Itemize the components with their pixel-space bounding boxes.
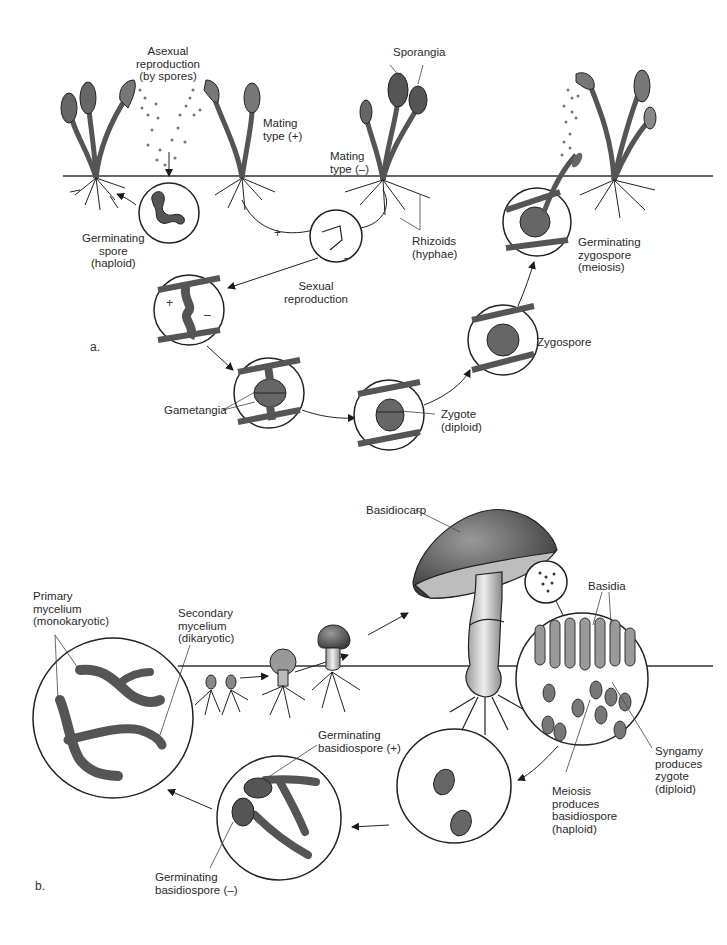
sporangiophore-plant-mating-minus [345, 73, 430, 215]
label-rhizoids: Rhizoids (hyphae) [412, 235, 457, 260]
panel-label-a: a. [90, 340, 100, 354]
label-basidia: Basidia [588, 580, 626, 593]
small-primordia [195, 675, 248, 715]
stage-circle-1 [154, 275, 224, 345]
sign-plus-loop: + [274, 226, 281, 240]
label-zygote: Zygote (diploid) [441, 408, 482, 433]
young-button [262, 649, 305, 718]
diagram-artwork [0, 0, 727, 945]
label-sexual-reproduction: Sexual reproduction [284, 280, 348, 305]
asexual-spores [139, 89, 202, 167]
label-meiosis: Meiosis produces basidiospore (haploid) [552, 785, 617, 835]
label-germinating-basidiospore-plus: Germinating basidiospore (+) [318, 729, 401, 754]
germinating-spore-circle [139, 183, 199, 243]
label-mating-type-plus: Mating type (+) [263, 117, 302, 142]
stage-circle-gametangia [234, 358, 304, 428]
germinating-basidiospores-circle [217, 756, 341, 880]
sign-minus-stage: – [204, 308, 211, 322]
sporangiophore-plant-right [576, 70, 656, 218]
label-asexual-reproduction: Asexual reproduction (by spores) [136, 45, 200, 83]
sexual-reproduction-circle [310, 210, 362, 262]
label-germinating-zygospore: Germinating zygospore (meiosis) [578, 236, 641, 274]
label-secondary-mycelium: Secondary mycelium (dikaryotic) [178, 607, 234, 645]
label-basidiocarp: Basidiocarp [366, 504, 426, 517]
sporangiophore-plant-1 [61, 80, 135, 210]
stage-circle-zygote [354, 380, 424, 450]
label-syngamy: Syngamy produces zygote (diploid) [655, 745, 703, 795]
basidiospore-circle [397, 729, 511, 843]
fungal-life-cycle-figure: Asexual reproduction (by spores) Sporang… [0, 0, 727, 945]
primary-mycelium-circle [33, 638, 193, 798]
label-germinating-basidiospore-minus: Germinating basidiospore (–) [155, 871, 237, 896]
label-primary-mycelium: Primary mycelium (monokaryotic) [33, 590, 109, 628]
label-sporangia: Sporangia [393, 46, 445, 59]
sporangiophore-plant-mating-plus [204, 80, 275, 210]
label-gametangia: Gametangia [164, 404, 227, 417]
sign-plus-stage: + [166, 296, 173, 310]
stage-circle-zygospore [468, 305, 538, 375]
developing-mushroom [312, 625, 360, 712]
label-germinating-spore: Germinating spore (haploid) [82, 232, 145, 270]
label-zygospore: Zygospore [537, 336, 591, 349]
spore-print-circle [525, 561, 567, 603]
sign-minus-loop: – [344, 251, 351, 265]
label-mating-type-minus: Mating type (–) [330, 150, 369, 175]
panel-label-b: b. [35, 879, 45, 893]
